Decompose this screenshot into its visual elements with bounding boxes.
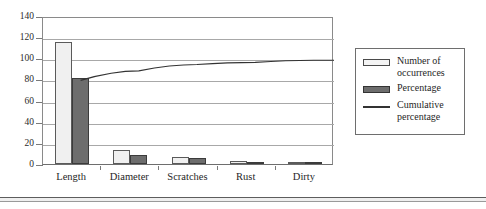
line-swatch-icon — [363, 106, 390, 108]
y-axis-tick — [36, 38, 42, 39]
legend-label: Cumulative percentage — [397, 99, 464, 122]
y-axis-tick-label: 100 — [4, 54, 34, 64]
x-axis-tick-label: Dirty — [275, 171, 333, 183]
legend-label: Percentage — [397, 82, 441, 94]
y-axis-tick-label: 20 — [4, 139, 34, 149]
legend-entry-number-of-occurrences: Number of occurrences — [363, 55, 464, 78]
y-axis-tick-label: 80 — [4, 75, 34, 85]
y-axis-tick-label: 40 — [4, 118, 34, 128]
x-axis-tick-label: Diameter — [100, 171, 158, 183]
y-axis-tick — [36, 144, 42, 145]
y-axis-tick-label: 60 — [4, 97, 34, 107]
legend-entry-cumulative-percentage: Cumulative percentage — [363, 99, 464, 122]
x-axis-tick-label: Rust — [217, 171, 275, 183]
y-axis-tick-label: 120 — [4, 33, 34, 43]
x-axis-tick — [217, 166, 218, 170]
x-axis-tick — [158, 166, 159, 170]
y-axis-tick — [36, 80, 42, 81]
x-axis-tick — [275, 166, 276, 170]
chart-legend: Number of occurrences Percentage Cumulat… — [355, 48, 465, 135]
light-bar-swatch-icon — [363, 59, 390, 66]
y-axis-tick — [36, 17, 42, 18]
y-axis-tick — [36, 102, 42, 103]
y-axis-tick — [36, 59, 42, 60]
x-axis: LengthDiameterScratchesRustDirty — [42, 166, 333, 188]
pareto-chart-figure: 020406080100120140 LengthDiameterScratch… — [0, 0, 486, 209]
cumulative-line-path — [81, 60, 334, 80]
y-axis-labels: 020406080100120140 — [0, 0, 34, 209]
legend-entry-percentage: Percentage — [363, 82, 441, 94]
legend-label: Number of occurrences — [397, 55, 464, 78]
cumulative-percentage-line — [43, 18, 334, 166]
y-axis-tick-label: 0 — [4, 160, 34, 170]
dark-bar-swatch-icon — [363, 86, 390, 93]
y-axis-tick-label: 140 — [4, 12, 34, 22]
x-axis-tick-label: Length — [42, 171, 100, 183]
y-axis-tick — [36, 165, 42, 166]
y-axis-tick — [36, 123, 42, 124]
plot-area — [42, 17, 333, 165]
x-axis-tick — [100, 166, 101, 170]
bottom-rule-divider — [0, 197, 486, 202]
x-axis-tick-label: Scratches — [158, 171, 216, 183]
